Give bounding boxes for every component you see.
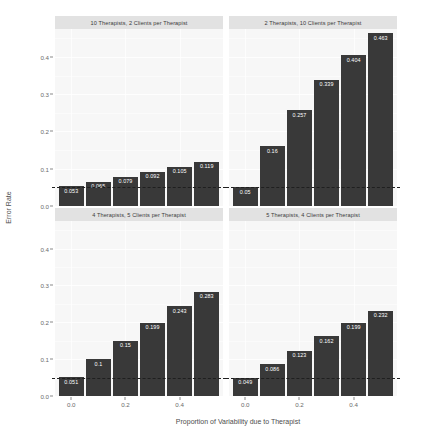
bar-value-label: 0.105 [167, 168, 192, 175]
y-tick-mark [50, 131, 53, 132]
bar-value-label: 0.15 [113, 342, 138, 349]
y-tick-mark [50, 248, 53, 249]
reference-line [226, 378, 400, 379]
y-tick-label: 0.2 [40, 319, 49, 326]
y-tick-mark [50, 322, 53, 323]
plot-area: 0.0530.0650.0790.0920.1050.119 [55, 29, 223, 206]
bar-value-label: 0.162 [314, 338, 339, 345]
y-tick-mark [50, 359, 53, 360]
x-tick-group: 0.00.20.4 [55, 397, 223, 413]
y-tick-mark [50, 206, 53, 207]
y-tick-mark [50, 94, 53, 95]
panel-1: 2 Therapists, 10 Clients per Therapist0.… [229, 16, 397, 206]
bar [314, 336, 339, 396]
bar-value-label: 0.283 [194, 293, 219, 300]
bar-series: 0.050.160.2570.3390.4040.463 [229, 29, 397, 206]
bar-series: 0.0490.0860.1230.1620.1990.232 [229, 221, 397, 396]
reference-line [52, 378, 226, 379]
panel-strip-label: 5 Therapists, 4 Clients per Therapist [229, 208, 397, 221]
y-tick-mark [50, 396, 53, 397]
bar-value-label: 0.243 [167, 308, 192, 315]
y-tick-mark [50, 285, 53, 286]
bar-value-label: 0.079 [113, 178, 138, 185]
bar [287, 110, 312, 206]
bar-value-label: 0.086 [260, 366, 285, 373]
bar [341, 323, 366, 396]
bar [194, 292, 219, 396]
x-tick-mark [245, 397, 246, 400]
x-tick-mark [179, 397, 180, 400]
bar-value-label: 0.16 [260, 148, 285, 155]
bar-series: 0.0510.10.150.1990.2430.283 [55, 221, 223, 396]
x-tick-mark [299, 397, 300, 400]
plot-area: 0.0510.10.150.1990.2430.283 [55, 221, 223, 396]
reference-line [52, 187, 226, 188]
bar-value-label: 0.053 [59, 188, 84, 195]
bar [341, 55, 366, 206]
bar-value-label: 0.119 [194, 163, 219, 170]
x-axis-title: Proportion of Variability due to Therapi… [55, 418, 421, 425]
y-tick-label: 0.1 [40, 356, 49, 363]
y-tick-label: 0.0 [40, 393, 49, 400]
panel-grid: 10 Therapists, 2 Clients per Therapist0.… [55, 16, 421, 396]
panel-3: 5 Therapists, 4 Clients per Therapist0.0… [229, 208, 397, 396]
y-tick-label: 0.4 [40, 245, 49, 252]
bar-value-label: 0.199 [341, 324, 366, 331]
bar-value-label: 0.232 [368, 312, 393, 319]
bar [260, 146, 285, 206]
x-tick-label: 0.2 [295, 401, 304, 408]
x-tick-label: 0.0 [241, 401, 250, 408]
bar-value-label: 0.051 [59, 379, 84, 386]
x-tick-label: 0.4 [349, 401, 358, 408]
bar-value-label: 0.092 [140, 173, 165, 180]
y-tick-label: 0.2 [40, 128, 49, 135]
bar [368, 33, 393, 206]
bar-value-label: 0.339 [314, 81, 339, 88]
bar-value-label: 0.404 [341, 57, 366, 64]
plot-area: 0.050.160.2570.3390.4040.463 [229, 29, 397, 206]
faceted-bar-chart-figure: Error Rate 0.00.10.20.30.40.00.10.20.30.… [0, 0, 423, 444]
y-axis-ticks: 0.00.10.20.30.40.00.10.20.30.4 [0, 16, 55, 396]
panel-0: 10 Therapists, 2 Clients per Therapist0.… [55, 16, 223, 206]
gridline-major [229, 206, 397, 207]
y-tick-label: 0.3 [40, 91, 49, 98]
bar-value-label: 0.05 [233, 189, 258, 196]
y-tick-mark [50, 168, 53, 169]
bar-value-label: 0.463 [368, 35, 393, 42]
y-tick-label: 0.0 [40, 203, 49, 210]
bar-value-label: 0.049 [233, 379, 258, 386]
bar-value-label: 0.199 [140, 324, 165, 331]
x-tick-mark [125, 397, 126, 400]
y-tick-label: 0.1 [40, 165, 49, 172]
y-tick-label: 0.4 [40, 53, 49, 60]
x-tick-group: 0.00.20.4 [229, 397, 397, 413]
bar [368, 311, 393, 396]
panel-2: 4 Therapists, 5 Clients per Therapist0.0… [55, 208, 223, 396]
bar-value-label: 0.257 [287, 112, 312, 119]
x-tick-mark [353, 397, 354, 400]
y-tick-mark [50, 56, 53, 57]
x-tick-label: 0.4 [175, 401, 184, 408]
panel-strip-label: 2 Therapists, 10 Clients per Therapist [229, 16, 397, 29]
x-tick-label: 0.2 [121, 401, 130, 408]
plot-area: 0.0490.0860.1230.1620.1990.232 [229, 221, 397, 396]
panel-strip-label: 4 Therapists, 5 Clients per Therapist [55, 208, 223, 221]
bar-value-label: 0.123 [287, 352, 312, 359]
bar [140, 323, 165, 396]
bar-value-label: 0.1 [86, 361, 111, 368]
reference-line [226, 187, 400, 188]
x-tick-label: 0.0 [67, 401, 76, 408]
bar-series: 0.0530.0650.0790.0920.1050.119 [55, 29, 223, 206]
gridline-major [55, 206, 223, 207]
x-tick-mark [71, 397, 72, 400]
bar [167, 306, 192, 396]
y-tick-label: 0.3 [40, 282, 49, 289]
panel-strip-label: 10 Therapists, 2 Clients per Therapist [55, 16, 223, 29]
